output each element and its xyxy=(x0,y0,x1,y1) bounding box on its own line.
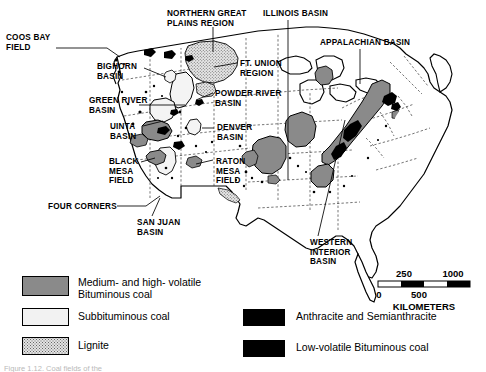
map-label-western-interior-basin: WESTERN INTERIOR BASIN xyxy=(310,238,352,267)
legend-label-medium-high-volatile-bituminous: Medium- and high- volatile Bituminous co… xyxy=(78,276,201,301)
scale-bar-segment-3 xyxy=(447,281,470,287)
scale-tick-bottom-0: 0 xyxy=(376,289,381,300)
scale-bar-unit-label: KILOMETERS xyxy=(393,301,455,312)
map-label-ft-union-region: FT. UNION REGION xyxy=(240,59,282,78)
map-label-black-mesa-field: BLACK MESA FIELD xyxy=(109,157,139,186)
scale-bar-segment-1 xyxy=(401,281,424,287)
scale-tick-bottom-1: 500 xyxy=(411,289,427,300)
map-label-coos-bay-field: COOS BAY FIELD xyxy=(6,33,51,52)
map-label-appalachian-basin: APPALACHIAN BASIN xyxy=(320,38,410,48)
legend-label-subbituminous: Subbituminous coal xyxy=(78,310,170,322)
four-corners-leader xyxy=(117,196,160,206)
coos-bay-leader xyxy=(56,48,120,57)
map-label-northern-great-plains: NORTHERN GREAT PLAINS REGION xyxy=(167,9,247,28)
figure-caption: Figure 1.12. Coal fields of the xyxy=(4,364,224,372)
legend-swatch-low-volatile-bituminous xyxy=(243,340,285,357)
map-label-bighorn-basin: BIGHORN BASIN xyxy=(97,62,137,81)
scale-bar-graphic xyxy=(378,281,470,287)
map-label-illinois-basin: ILLINOIS BASIN xyxy=(263,9,328,19)
legend-swatch-subbituminous xyxy=(22,308,69,326)
scale-tick-top-0: 250 xyxy=(396,268,412,279)
legend-label-lignite: Lignite xyxy=(78,339,109,351)
map-label-green-river-basin: GREEN RIVER BASIN xyxy=(89,96,148,115)
map-label-denver-basin: DENVER BASIN xyxy=(217,123,252,142)
map-label-powder-river-basin: POWDER RIVER BASIN xyxy=(215,89,282,108)
legend-swatch-medium-high-volatile-bituminous xyxy=(22,276,69,296)
legend-swatch-anthracite-semianthracite xyxy=(243,309,285,326)
scale-tick-top-1: 1000 xyxy=(442,268,463,279)
map-label-raton-mesa-field: RATON MESA FIELD xyxy=(216,157,245,186)
map-label-four-corners: FOUR CORNERS xyxy=(48,202,117,212)
legend-swatch-lignite xyxy=(22,337,69,355)
coal-fields-map-figure: COOS BAY FIELDBIGHORN BASINGREEN RIVER B… xyxy=(0,0,486,372)
map-label-uinta-basin: UINTA BASIN xyxy=(110,122,136,141)
map-label-san-juan-basin: SAN JUAN BASIN xyxy=(137,218,180,237)
legend-label-low-volatile-bituminous: Low-volatile Bituminous coal xyxy=(296,341,428,353)
